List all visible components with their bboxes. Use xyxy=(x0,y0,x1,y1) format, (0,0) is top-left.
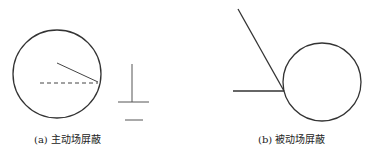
shield-circle-a xyxy=(13,30,101,118)
caption-b: (b) 被动场屏蔽 xyxy=(258,131,325,146)
radius-line xyxy=(57,63,98,82)
caption-a: (a) 主动场屏蔽 xyxy=(34,131,101,146)
panel-a xyxy=(13,30,149,120)
diagonal-line xyxy=(238,9,284,91)
ground-icon xyxy=(118,64,149,120)
shield-circle-b xyxy=(283,43,361,121)
panel-b xyxy=(233,9,361,121)
